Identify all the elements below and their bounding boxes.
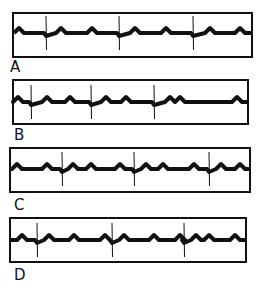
qrs-spike: [119, 16, 120, 50]
ecg-trace: [12, 12, 253, 58]
ecg-trace: [12, 79, 249, 125]
ecg-strip-a: [12, 12, 253, 58]
ecg-trace: [9, 217, 247, 263]
qrs-spike: [62, 152, 63, 186]
strip-label-a: A: [10, 60, 20, 75]
ecg-trace: [9, 147, 251, 193]
qrs-spike: [154, 85, 155, 119]
ecg-strip-b: [12, 79, 249, 125]
ecg-strip-d: [9, 217, 247, 263]
qrs-spike: [134, 152, 135, 186]
ecg-baseline: [11, 235, 245, 243]
ecg-baseline: [13, 97, 247, 105]
qrs-spike: [31, 85, 32, 119]
qrs-spike: [193, 16, 194, 50]
ecg-strip-c: [9, 147, 251, 193]
qrs-spike: [112, 223, 113, 257]
strip-label-c: C: [14, 198, 24, 213]
strip-label-d: D: [14, 268, 26, 283]
ecg-baseline: [11, 164, 249, 172]
qrs-spike: [209, 152, 210, 186]
ecg-baseline: [14, 28, 251, 36]
qrs-spike: [91, 85, 92, 119]
strip-label-b: B: [14, 128, 24, 143]
qrs-spike: [46, 16, 47, 50]
qrs-spike: [184, 223, 185, 257]
qrs-spike: [37, 223, 38, 257]
